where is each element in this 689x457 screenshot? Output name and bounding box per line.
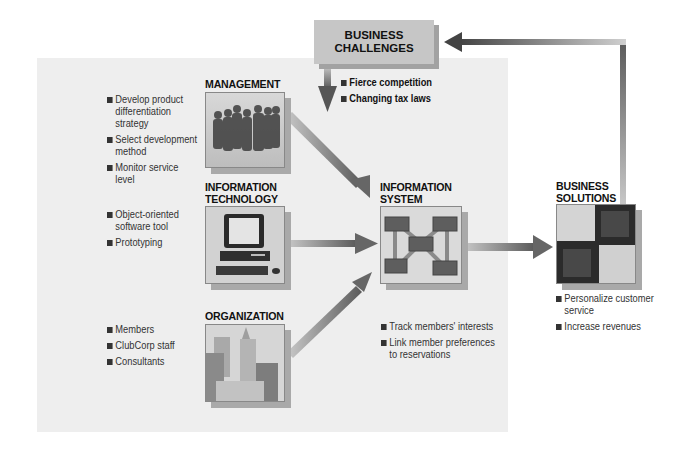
list-item: Link member preferencesto reservations — [381, 337, 495, 361]
technology-list: Object-orientedsoftware tool Prototyping — [107, 209, 179, 253]
checker-icon — [557, 205, 635, 283]
list-item: Fierce competition — [341, 77, 432, 89]
list-item: Changing tax laws — [341, 93, 432, 105]
technology-computer-image — [205, 206, 285, 284]
list-item: Increase revenues — [556, 321, 654, 333]
organization-to-system-arrow — [287, 272, 372, 358]
organization-list: Members ClubCorp staff Consultants — [107, 324, 175, 372]
system-list: Track members' interests Link member pre… — [381, 321, 495, 365]
challenges-title-line2: CHALLENGES — [314, 42, 434, 55]
solutions-list: Personalize customerservice Increase rev… — [556, 293, 654, 337]
list-item: Develop productdifferentiationstrategy — [107, 94, 197, 130]
list-item: Members — [107, 324, 175, 336]
computer-icon — [206, 207, 284, 283]
list-item: ClubCorp staff — [107, 340, 175, 352]
management-title: MANAGEMENT — [205, 78, 280, 90]
list-item: Prototyping — [107, 237, 179, 249]
system-to-solutions-arrow — [463, 235, 553, 259]
people-icon — [206, 93, 284, 167]
management-people-image — [205, 92, 285, 168]
solutions-checker-image — [556, 204, 636, 284]
organization-buildings-image — [205, 324, 285, 402]
list-item: Monitor servicelevel — [107, 162, 197, 186]
buildings-icon — [206, 325, 284, 401]
management-to-system-arrow — [285, 112, 370, 198]
network-icon — [381, 207, 461, 283]
system-network-image — [380, 206, 462, 284]
list-item: Track members' interests — [381, 321, 495, 333]
business-challenges-box: BUSINESS CHALLENGES — [314, 20, 434, 64]
challenges-title-line1: BUSINESS — [314, 20, 434, 42]
list-item: Personalize customerservice — [556, 293, 654, 317]
technology-title: INFORMATIONTECHNOLOGY — [205, 181, 278, 205]
list-item: Consultants — [107, 356, 175, 368]
technology-to-system-arrow — [287, 233, 378, 254]
list-item: Object-orientedsoftware tool — [107, 209, 179, 233]
solutions-title: BUSINESSSOLUTIONS — [556, 180, 616, 204]
challenges-list: Fierce competition Changing tax laws — [341, 77, 432, 109]
list-item: Select developmentmethod — [107, 134, 197, 158]
system-title: INFORMATIONSYSTEM — [380, 181, 452, 205]
management-list: Develop productdifferentiationstrategy S… — [107, 94, 197, 190]
organization-title: ORGANIZATION — [205, 310, 284, 322]
challenges-down-arrow — [318, 66, 337, 112]
